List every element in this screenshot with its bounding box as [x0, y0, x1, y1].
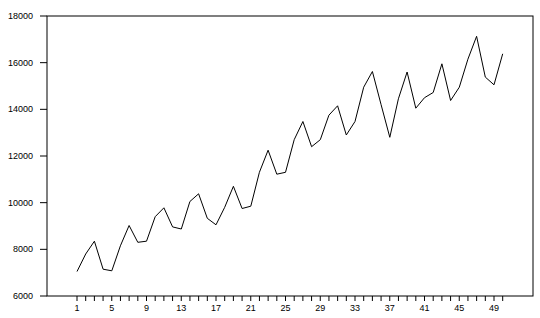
data-line [77, 36, 503, 271]
x-tick-label: 17 [211, 303, 221, 313]
x-axis: 15913172125293337414549 [74, 296, 502, 313]
x-tick-label: 29 [315, 303, 325, 313]
y-tick-label: 6000 [13, 291, 33, 301]
line-chart: 600080001000012000140001600018000 159131… [0, 0, 540, 318]
x-tick-label: 21 [246, 303, 256, 313]
y-axis: 600080001000012000140001600018000 [8, 11, 47, 301]
x-tick-label: 49 [489, 303, 499, 313]
x-tick-label: 37 [385, 303, 395, 313]
x-tick-label: 9 [144, 303, 149, 313]
y-tick-label: 10000 [8, 198, 33, 208]
y-tick-label: 12000 [8, 151, 33, 161]
x-tick-label: 25 [280, 303, 290, 313]
x-tick-label: 45 [454, 303, 464, 313]
x-tick-label: 33 [350, 303, 360, 313]
y-tick-label: 14000 [8, 104, 33, 114]
y-tick-label: 16000 [8, 58, 33, 68]
x-tick-label: 41 [419, 303, 429, 313]
x-tick-label: 13 [176, 303, 186, 313]
x-tick-label: 5 [109, 303, 114, 313]
y-tick-label: 8000 [13, 244, 33, 254]
x-tick-label: 1 [74, 303, 79, 313]
y-tick-label: 18000 [8, 11, 33, 21]
